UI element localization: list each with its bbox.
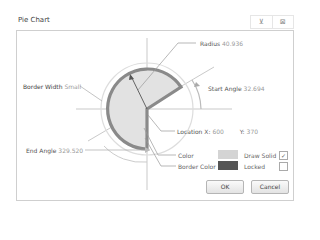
border-color-label: Border Color [178,163,216,170]
location-label: Location X: 600 Y: 370 [177,128,258,135]
location-y-value[interactable]: 370 [247,128,258,135]
draw-solid-label: Draw Solid [244,152,276,159]
start-angle-label-text: Start Angle [208,85,242,92]
border-width-value[interactable]: Small [64,83,81,90]
draw-solid-checkbox[interactable]: ✓ [279,151,288,160]
border-width-label: Border Width Small [23,83,81,90]
end-angle-value[interactable]: 329.520 [58,147,83,154]
radius-label-text: Radius [200,40,220,47]
location-y-label: Y: [240,128,245,135]
border-color-swatch[interactable] [218,161,238,170]
location-x-label: X: [204,128,210,135]
radius-value[interactable]: 40.936 [222,40,243,47]
locked-label: Locked [244,163,265,170]
start-angle-value[interactable]: 32.694 [244,85,265,92]
locked-checkbox[interactable] [279,162,288,171]
cancel-button[interactable]: Cancel [251,180,289,194]
border-width-label-text: Border Width [23,83,62,90]
ok-button[interactable]: OK [206,180,244,194]
color-label: Color [178,152,194,159]
start-angle-label: Start Angle 32.694 [208,85,265,92]
end-angle-label-text: End Angle [26,147,56,154]
color-swatch[interactable] [218,150,238,159]
end-angle-label: End Angle 329.520 [26,147,83,154]
location-x-value[interactable]: 600 [212,128,223,135]
radius-label: Radius 40.936 [200,40,243,47]
location-label-text: Location [177,128,202,135]
